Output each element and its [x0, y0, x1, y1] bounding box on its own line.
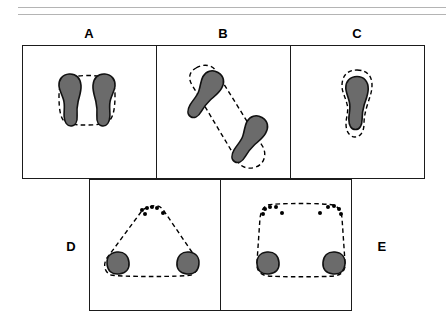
top-rule-lower	[18, 14, 446, 15]
panel-frame-a	[22, 45, 157, 179]
panel-label-d: D	[66, 240, 76, 253]
panel-label-e: E	[378, 240, 387, 253]
panel-frame-b	[156, 45, 291, 179]
panel-frame-c	[290, 45, 425, 179]
panel-label-a: A	[84, 27, 94, 40]
panel-frame-e	[220, 179, 352, 311]
panel-label-b: B	[218, 27, 228, 40]
panel-frame-d	[89, 179, 221, 311]
panel-label-c: C	[352, 27, 362, 40]
figure-root: A B C D E	[0, 0, 447, 322]
top-rule-upper	[18, 7, 446, 8]
